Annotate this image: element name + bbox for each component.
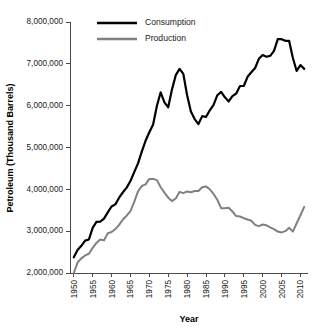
series-line-consumption <box>74 39 304 257</box>
x-tick-label: 2010 <box>296 280 305 299</box>
x-tick-label: 1975 <box>164 280 173 299</box>
x-tick-label: 1965 <box>126 280 135 299</box>
series-line-production <box>74 179 304 273</box>
x-tick-label: 1985 <box>202 280 211 299</box>
petroleum-line-chart: 8,000,0007,000,0006,000,0005,000,0004,00… <box>0 0 320 328</box>
y-tick-label: 7,000,000 <box>27 59 64 68</box>
x-tick-label: 1970 <box>145 280 154 299</box>
chart-legend: ConsumptionProduction <box>97 17 196 43</box>
x-tick-label: 1950 <box>70 280 79 299</box>
y-tick-label: 4,000,000 <box>27 185 64 194</box>
y-tick-label: 2,000,000 <box>27 268 64 277</box>
series-lines <box>74 39 304 273</box>
x-axis-title: Year <box>179 314 199 324</box>
y-tick-label: 6,000,000 <box>27 101 64 110</box>
x-tick-label: 2000 <box>259 280 268 299</box>
y-axis-title: Petroleum (Thousand Barrels) <box>5 83 15 212</box>
x-tick-label: 1995 <box>240 280 249 299</box>
x-tick-label: 1980 <box>183 280 192 299</box>
legend-label-consumption: Consumption <box>145 17 196 27</box>
y-tick-label: 8,000,000 <box>27 17 64 26</box>
x-tick-label: 2005 <box>278 280 287 299</box>
y-tick-label: 3,000,000 <box>27 226 64 235</box>
x-tick-label: 1960 <box>108 280 117 299</box>
y-axis: 8,000,0007,000,0006,000,0005,000,0004,00… <box>27 17 70 277</box>
x-tick-label: 1955 <box>89 280 98 299</box>
legend-label-production: Production <box>145 33 186 43</box>
y-tick-label: 5,000,000 <box>27 143 64 152</box>
x-tick-label: 1990 <box>221 280 230 299</box>
x-axis: 1950195519601965197019751980198519901995… <box>70 273 308 298</box>
chart-canvas: 8,000,0007,000,0006,000,0005,000,0004,00… <box>0 0 320 328</box>
